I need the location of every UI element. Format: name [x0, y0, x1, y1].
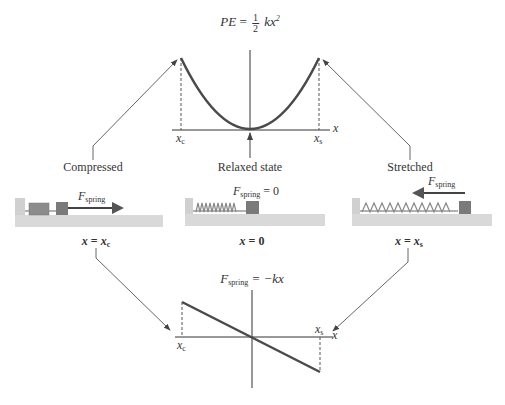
stretched-scene [352, 193, 492, 226]
compressed-to-pe-arrow [93, 60, 177, 160]
force-xs-label: xs [315, 322, 323, 337]
stretched-label: Stretched [387, 160, 432, 175]
pe-graph [172, 50, 330, 158]
compressed-position: x = xc [82, 234, 110, 249]
relaxed-label: Relaxed state [218, 160, 282, 175]
relaxed-position: x = 0 [240, 234, 265, 249]
relaxed-force-label: Fspring = 0 [233, 184, 279, 199]
compressed-force-label: Fspring [78, 189, 105, 204]
pe-x-axis-label: x [333, 121, 338, 136]
force-xc-label: xc [177, 338, 186, 353]
diagram-canvas [0, 0, 505, 405]
stretched-to-pe-arrow [323, 60, 410, 160]
compressed-label: Compressed [63, 160, 122, 175]
stretched-force-label: Fspring [428, 174, 455, 189]
relaxed-mass [246, 201, 259, 214]
compressed-mass [56, 202, 68, 215]
force-graph [175, 290, 333, 388]
stretched-to-force-arrow [333, 248, 408, 331]
compressed-spring [29, 203, 49, 215]
pe-xs-label: xs [314, 131, 322, 146]
stretched-mass [459, 201, 471, 214]
pe-xc-label: xc [176, 131, 185, 146]
pe-equation: PE = 12 kx2 [220, 13, 280, 34]
stretched-position: x = xs [395, 234, 423, 249]
force-equation: Fspring = −kx [220, 271, 284, 287]
relaxed-scene [185, 198, 325, 226]
compressed-to-force-arrow [96, 248, 170, 330]
force-x-axis-label: x [332, 328, 337, 343]
